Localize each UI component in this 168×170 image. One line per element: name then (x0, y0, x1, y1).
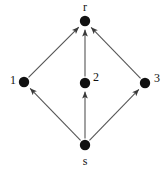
graph-node-3[interactable] (140, 78, 150, 88)
graph-canvas (0, 0, 168, 170)
node-label-3: 3 (154, 72, 160, 84)
graph-node-1[interactable] (19, 77, 29, 87)
directed-graph-figure: r123s (0, 0, 168, 170)
graph-node-r[interactable] (80, 16, 90, 26)
graph-node-s[interactable] (80, 140, 90, 150)
graph-edge-s-to-1 (30, 88, 80, 140)
graph-edge-s-to-3 (89, 89, 138, 140)
node-label-r: r (83, 1, 87, 13)
graph-node-2[interactable] (80, 78, 90, 88)
node-label-s: s (83, 155, 88, 167)
node-label-2: 2 (93, 71, 99, 83)
graph-edge-1-to-r (29, 27, 79, 77)
node-label-1: 1 (10, 74, 16, 86)
